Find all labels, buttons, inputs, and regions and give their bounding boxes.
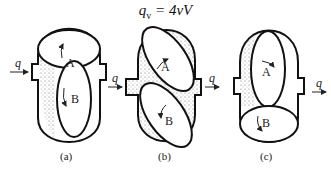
- flow-out-label: q: [209, 71, 215, 85]
- rotor-b-label: B: [262, 116, 270, 130]
- rotor-b-label: B: [71, 92, 79, 106]
- panel-c: [234, 31, 326, 143]
- panel-b-caption: (b): [158, 150, 171, 163]
- rotor-b-label: B: [165, 114, 173, 128]
- panel-b: [108, 18, 219, 155]
- oval-gear-flowmeter-diagram: A B q (a) A B q q (b) A B q (c): [0, 0, 331, 174]
- panel-c-caption: (c): [260, 150, 273, 163]
- panel-a: [10, 29, 106, 142]
- flow-in-label: q: [15, 56, 21, 70]
- flow-in-label: q: [112, 71, 118, 85]
- panel-a-caption: (a): [60, 150, 73, 163]
- rotor-a-label: A: [66, 56, 75, 70]
- rotor-a-label: A: [161, 60, 170, 74]
- flow-out-label: q: [316, 76, 322, 90]
- rotor-a-label: A: [262, 65, 271, 79]
